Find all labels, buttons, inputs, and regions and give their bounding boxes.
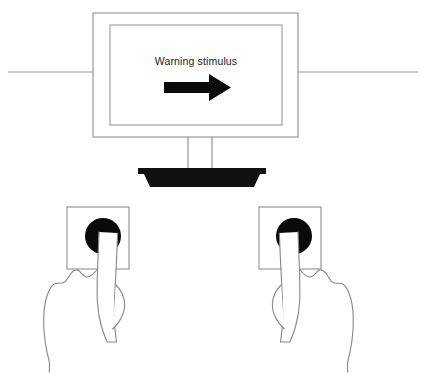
monitor-stand	[188, 137, 212, 169]
monitor-screen	[110, 25, 282, 125]
figure-canvas: Warning stimulus	[0, 0, 425, 386]
monitor-base	[138, 168, 266, 187]
right-hand-palm	[300, 270, 353, 372]
warning-stimulus-label: Warning stimulus	[155, 55, 238, 67]
monitor-base-top-bar	[138, 168, 266, 174]
warning-stimulus-diagram: Warning stimulus	[0, 0, 425, 386]
monitor-base-trapezoid	[144, 174, 260, 187]
left-hand-palm	[44, 270, 97, 372]
